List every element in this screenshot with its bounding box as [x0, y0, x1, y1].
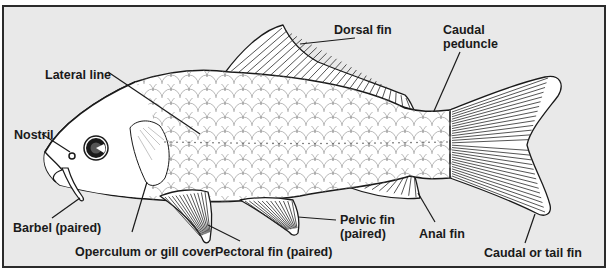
lateral-line-pore — [368, 142, 370, 144]
lateral-line-pore — [434, 141, 436, 143]
lateral-line-pore — [350, 143, 352, 145]
lateral-line-pore — [362, 142, 364, 144]
lateral-line-pore — [440, 141, 442, 143]
lateral-line-pore — [176, 141, 178, 143]
label-nostril: Nostril — [14, 128, 54, 142]
lateral-line-pore — [272, 143, 274, 145]
lateral-line-pore — [200, 142, 202, 144]
lateral-line-pore — [242, 142, 244, 144]
lateral-line-pore — [224, 142, 226, 144]
lateral-line-pore — [332, 143, 334, 145]
lateral-line-pore — [386, 142, 388, 144]
lateral-line-pore — [314, 143, 316, 145]
lateral-line-pore — [296, 143, 298, 145]
lateral-line-pore — [212, 142, 214, 144]
lateral-line-pore — [446, 141, 448, 143]
lateral-line-pore — [404, 142, 406, 144]
lateral-line-pore — [326, 143, 328, 145]
lateral-line-pore — [188, 142, 190, 144]
lateral-line-pore — [392, 142, 394, 144]
lateral-line-pore — [206, 142, 208, 144]
lateral-line-pore — [248, 142, 250, 144]
label-operculum: Operculum or gill cover — [75, 245, 215, 259]
lateral-line-pore — [308, 143, 310, 145]
lateral-line-pore — [236, 142, 238, 144]
label-pelvic-fin-1: Pelvic fin — [340, 213, 395, 227]
lateral-line-pore — [344, 143, 346, 145]
fish-anatomy-diagram: Dorsal fin Caudal peduncle Lateral line … — [0, 0, 609, 271]
lateral-line-pore — [398, 142, 400, 144]
label-lateral-line: Lateral line — [45, 68, 111, 82]
lateral-line-pore — [428, 142, 430, 144]
label-anal-fin: Anal fin — [419, 227, 465, 241]
lateral-line-pore — [230, 142, 232, 144]
lateral-line-pore — [254, 142, 256, 144]
lateral-line-pore — [194, 142, 196, 144]
lateral-line-pore — [170, 141, 172, 143]
label-caudal-peduncle-1: Caudal — [443, 23, 485, 37]
lateral-line-pore — [278, 143, 280, 145]
label-pelvic-fin-2: (paired) — [340, 227, 386, 241]
lateral-line-pore — [218, 142, 220, 144]
label-caudal-peduncle-2: peduncle — [443, 37, 498, 51]
lateral-line-pore — [290, 143, 292, 145]
lateral-line-pore — [284, 143, 286, 145]
lateral-line-pore — [302, 143, 304, 145]
lateral-line-pore — [266, 143, 268, 145]
lateral-line-pore — [320, 143, 322, 145]
label-dorsal-fin: Dorsal fin — [334, 23, 392, 37]
label-caudal-fin: Caudal or tail fin — [484, 246, 582, 260]
lateral-line-pore — [416, 142, 418, 144]
label-barbel: Barbel (paired) — [13, 221, 101, 235]
lateral-line-pore — [374, 142, 376, 144]
lateral-line-pore — [422, 142, 424, 144]
lateral-line-pore — [410, 142, 412, 144]
lateral-line-pore — [260, 143, 262, 145]
label-pectoral-fin: Pectoral fin (paired) — [215, 245, 332, 259]
lateral-line-pore — [356, 142, 358, 144]
lateral-line-pore — [164, 141, 166, 143]
nostril — [69, 153, 75, 159]
lateral-line-pore — [182, 141, 184, 143]
lateral-line-pore — [380, 142, 382, 144]
lateral-line-pore — [338, 143, 340, 145]
